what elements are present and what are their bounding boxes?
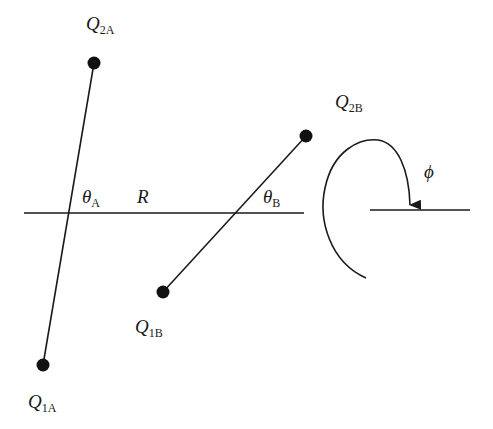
label-phi: ϕ	[424, 161, 434, 182]
label-distance-r: R	[136, 186, 149, 207]
label-theta-a: θA	[82, 186, 100, 210]
label-q2a: Q2A	[86, 13, 115, 37]
dihedral-rotation-arrow-icon	[323, 140, 410, 278]
dipole-b-bond-line	[163, 136, 306, 292]
label-q2b: Q2B	[335, 91, 363, 115]
charge-q2b-dot	[300, 130, 313, 143]
label-q1b: Q1B	[135, 316, 163, 340]
dipole-geometry-diagram: Q2A Q1A Q2B Q1B θA θB R ϕ	[0, 0, 493, 429]
dipole-a-bond-line	[43, 63, 94, 365]
label-theta-b: θB	[263, 186, 280, 210]
charge-q2a-dot	[88, 57, 101, 70]
charge-q1b-dot	[157, 286, 170, 299]
charge-q1a-dot	[37, 359, 50, 372]
label-q1a: Q1A	[28, 391, 57, 415]
